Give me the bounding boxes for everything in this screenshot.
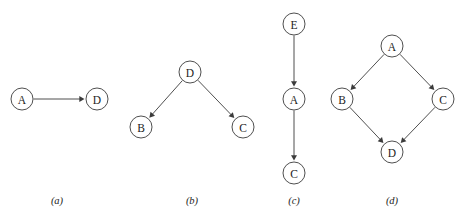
graph-node[interactable]: A — [381, 35, 403, 57]
node-label: D — [186, 67, 194, 79]
figure-container: ADDBCEACABCD (a)(b)(c)(d) — [0, 0, 463, 216]
panel-caption: (d) — [386, 196, 398, 207]
node-label: B — [338, 94, 346, 106]
graph-canvas: ADDBCEACABCD — [0, 0, 463, 216]
graph-node[interactable]: A — [283, 88, 305, 110]
node-label: C — [239, 122, 247, 134]
node-label: A — [18, 94, 27, 106]
graph-node[interactable]: D — [86, 88, 108, 110]
graph-edge — [291, 36, 297, 87]
graph-edge — [400, 54, 434, 90]
panel-caption: (b) — [186, 196, 198, 207]
graph-node[interactable]: E — [283, 13, 305, 35]
graph-node[interactable]: C — [232, 116, 254, 138]
arrow-head-icon — [291, 155, 297, 160]
arrow-head-icon — [291, 81, 297, 86]
graph-node[interactable]: D — [179, 61, 201, 83]
arrow-head-icon — [79, 96, 84, 102]
graph-node[interactable]: B — [130, 116, 152, 138]
graph-edge — [291, 111, 297, 161]
graph-edge — [34, 96, 85, 102]
nodes-layer: ADDBCEACABCD — [11, 13, 454, 184]
node-label: A — [388, 41, 397, 53]
panel-caption: (c) — [288, 196, 300, 207]
node-label: C — [290, 168, 298, 180]
node-label: E — [290, 19, 297, 31]
graph-node[interactable]: B — [331, 88, 353, 110]
graph-node[interactable]: C — [283, 162, 305, 184]
graph-edge — [149, 81, 182, 118]
graph-edge — [350, 107, 384, 143]
graph-edge — [198, 80, 234, 118]
panel-caption: (a) — [51, 196, 63, 207]
node-label: A — [290, 94, 299, 106]
node-label: C — [439, 94, 447, 106]
node-label: D — [93, 94, 101, 106]
graph-node[interactable]: D — [381, 141, 403, 163]
graph-node[interactable]: C — [432, 88, 454, 110]
node-label: B — [137, 122, 145, 134]
node-label: D — [388, 147, 396, 159]
graph-edge — [401, 107, 435, 143]
graph-edge — [351, 54, 385, 90]
graph-node[interactable]: A — [11, 88, 33, 110]
